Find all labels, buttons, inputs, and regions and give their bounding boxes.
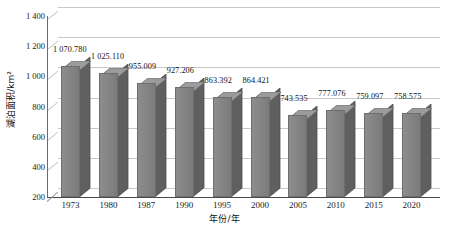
y-axis-tick-label: 1 400 — [14, 12, 45, 21]
x-axis-tick-label: 2000 — [240, 201, 280, 210]
data-label-2015: 759.097 — [356, 93, 383, 101]
bar-1995 — [213, 88, 243, 197]
bar-side-face — [231, 88, 243, 197]
gridline-depth-connector — [47, 128, 59, 138]
bar-front-face — [99, 73, 118, 197]
floor-left-diagonal — [47, 188, 59, 198]
data-label-1990: 927.206 — [167, 67, 194, 75]
x-axis-tick-label: 1990 — [164, 201, 204, 210]
y-axis-tick-label: 800 — [14, 103, 45, 112]
bar-2005 — [288, 106, 318, 197]
gridline-depth-connector — [47, 158, 59, 168]
bar-side-face — [79, 57, 91, 197]
y-axis-tick-label: 1 000 — [14, 72, 45, 81]
bar-front-face — [213, 97, 232, 197]
y-axis-title: 湖泊面积/km² — [7, 50, 16, 150]
y-axis-line — [47, 16, 48, 198]
x-axis-tick-label: 2010 — [316, 201, 356, 210]
plot-area: 1 4001 2001 000800600400200 1 070.7801 0… — [0, 0, 449, 233]
gridline-depth-connector — [47, 7, 59, 17]
bar-front-face — [402, 113, 421, 197]
bar-front-face — [61, 66, 80, 197]
x-axis-tick-label: 2015 — [354, 201, 394, 210]
y-axis-tick-label: 400 — [14, 163, 45, 172]
data-label-1980: 1 025.110 — [91, 53, 124, 61]
bar-side-face — [344, 101, 356, 197]
bar-1973 — [61, 57, 91, 197]
bar-1987 — [137, 74, 167, 197]
bar-1990 — [175, 78, 205, 197]
x-axis-tick-label: 1973 — [51, 201, 91, 210]
bar-2020 — [402, 104, 432, 197]
bar-1980 — [99, 64, 129, 197]
chart-container: 1 4001 2001 000800600400200 1 070.7801 0… — [0, 0, 449, 233]
bar-side-face — [269, 88, 281, 197]
bar-front-face — [364, 113, 383, 197]
bar-side-face — [155, 74, 167, 197]
data-label-1995: 863.392 — [205, 77, 232, 85]
gridline-depth-connector — [47, 98, 59, 108]
data-label-1987: 955.009 — [129, 63, 156, 71]
x-axis-tick-label: 2020 — [392, 201, 432, 210]
data-label-2005: 743.535 — [280, 95, 307, 103]
bar-2010 — [326, 101, 356, 197]
bar-front-face — [288, 115, 307, 197]
y-axis-tick-label: 1 200 — [14, 42, 45, 51]
data-label-2010: 777.076 — [318, 90, 345, 98]
bar-2000 — [251, 88, 281, 197]
data-label-2000: 864.421 — [243, 77, 270, 85]
bar-side-face — [117, 64, 129, 197]
bar-front-face — [137, 83, 156, 197]
bar-front-face — [251, 97, 270, 197]
x-axis-tick-label: 2005 — [278, 201, 318, 210]
x-axis-tick-label: 1980 — [88, 201, 128, 210]
x-axis-line — [47, 197, 440, 198]
bar-front-face — [175, 87, 194, 197]
bar-front-face — [326, 110, 345, 197]
gridline — [58, 37, 440, 38]
x-axis-tick-label: 1995 — [202, 201, 242, 210]
bar-2015 — [364, 104, 394, 197]
data-label-2020: 758.575 — [394, 93, 421, 101]
y-axis-tick-label: 200 — [14, 193, 45, 202]
x-axis-title: 年份/年 — [0, 215, 449, 224]
gridline-depth-connector — [47, 67, 59, 77]
data-label-1973: 1 070.780 — [53, 46, 87, 54]
x-axis-tick-label: 1987 — [126, 201, 166, 210]
y-axis-tick-label: 600 — [14, 133, 45, 142]
bar-side-face — [193, 78, 205, 197]
gridline — [58, 7, 440, 8]
